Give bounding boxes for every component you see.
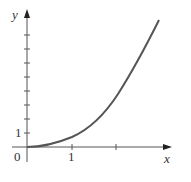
chart-plot [0,0,191,182]
x-axis-label: x [164,151,170,167]
y-axis-label: y [12,7,18,23]
origin-label: 0 [14,149,21,165]
y-tick-label-1: 1 [15,125,22,141]
data-curve [27,20,159,147]
x-axis-arrow-icon [163,144,172,150]
x-tick-label-1: 1 [68,149,75,165]
y-axis-arrow-icon [24,9,30,18]
